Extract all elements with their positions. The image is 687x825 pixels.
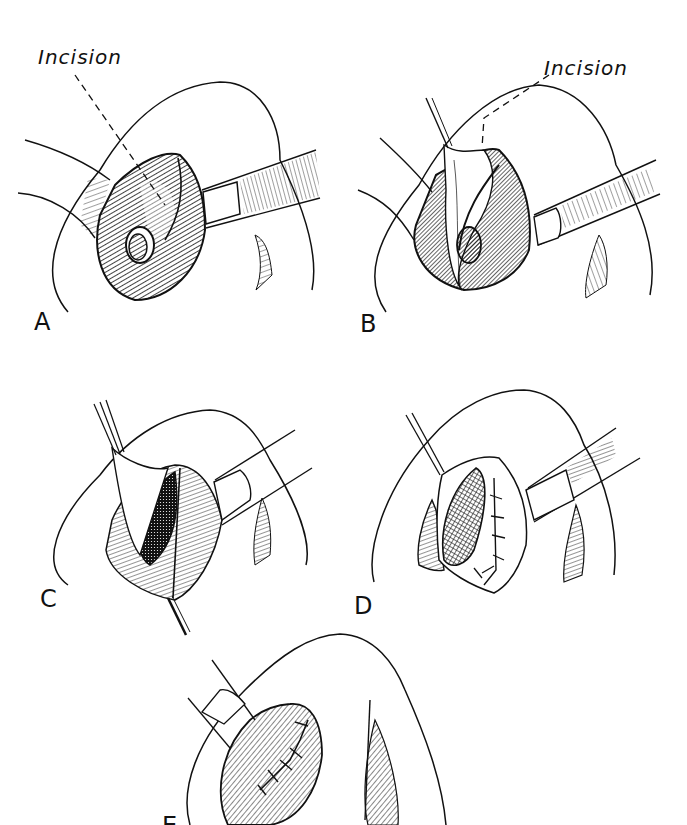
panel-d: D <box>344 360 687 640</box>
panel-label-b: B <box>360 310 376 338</box>
panel-c-drawing <box>0 360 344 660</box>
incision-callout-a: Incision <box>38 45 122 69</box>
panel-label-c: C <box>40 585 57 613</box>
panel-label-d: D <box>354 592 372 620</box>
panel-e: E <box>150 620 550 825</box>
panel-b-drawing <box>344 0 687 340</box>
panel-b: Incision B <box>344 0 687 340</box>
panel-a: Incision A <box>0 0 344 340</box>
panel-label-a: A <box>34 308 50 336</box>
panel-c: C <box>0 360 344 660</box>
incision-callout-b: Incision <box>544 56 628 80</box>
panel-d-drawing <box>344 360 687 640</box>
panel-e-drawing <box>150 620 550 825</box>
panel-label-e: E <box>162 812 177 825</box>
